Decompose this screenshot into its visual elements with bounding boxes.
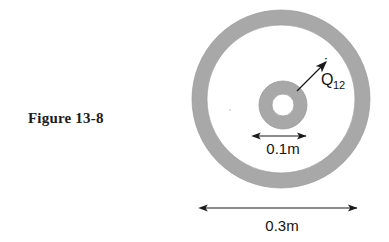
heat-flow-overdot-icon: ˙ xyxy=(324,56,329,73)
heat-flow-symbol: Q xyxy=(321,71,333,88)
scan-speck xyxy=(229,109,231,111)
annulus-diagram: Q ˙ 12 0.1m 0.3m xyxy=(0,0,389,242)
outer-diameter-label: 0.3m xyxy=(265,217,298,234)
inner-diameter-label: 0.1m xyxy=(266,140,299,157)
heat-flow-subscript: 12 xyxy=(333,79,345,91)
inner-annulus-inner-edge xyxy=(272,94,294,116)
figure-page: Figure 13-8 Q ˙ 12 xyxy=(0,0,389,242)
